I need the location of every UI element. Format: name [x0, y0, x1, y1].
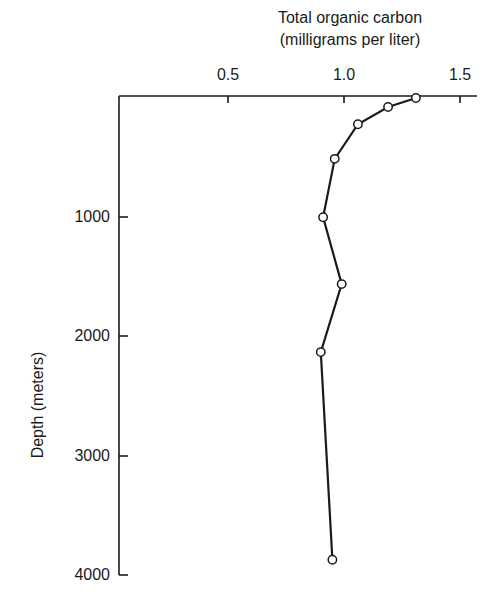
data-point-marker: [354, 120, 362, 128]
axes: [119, 96, 477, 575]
data-point-marker: [337, 280, 345, 288]
data-point-marker: [331, 155, 339, 163]
data-point-marker: [317, 348, 325, 356]
data-point-marker: [328, 555, 336, 563]
data-markers: [317, 94, 421, 564]
data-point-marker: [412, 94, 420, 102]
data-line: [321, 98, 416, 560]
plot-area: [0, 0, 496, 602]
data-point-marker: [384, 103, 392, 111]
data-point-marker: [319, 213, 327, 221]
